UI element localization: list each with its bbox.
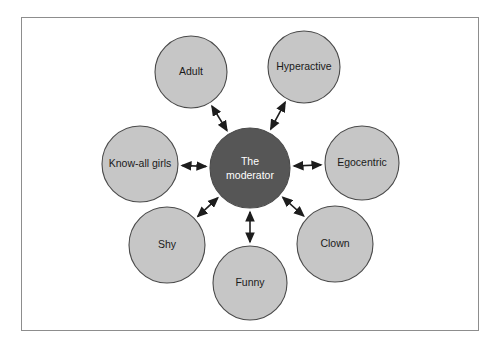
node-label-know-all-girls: Know-all girls <box>109 157 171 169</box>
hub-and-spoke-diagram: AdultHyperactiveEgocentricClownFunnyShyK… <box>0 0 497 349</box>
connector-the-moderator-to-clown <box>283 197 304 216</box>
node-label-adult: Adult <box>179 65 203 77</box>
node-label-clown: Clown <box>320 237 349 249</box>
node-label-egocentric: Egocentric <box>337 156 387 168</box>
node-hyperactive[interactable]: Hyperactive <box>268 31 340 103</box>
node-funny[interactable]: Funny <box>213 246 287 320</box>
center-label-line1: The <box>241 155 259 167</box>
connector-the-moderator-to-shy <box>198 198 218 217</box>
connector-the-moderator-to-hyperactive <box>271 102 285 129</box>
connector-the-moderator-to-adult <box>212 106 227 130</box>
connector-the-moderator-to-egocentric <box>294 165 321 166</box>
diagram-page: AdultHyperactiveEgocentricClownFunnyShyK… <box>0 0 497 349</box>
node-know-all-girls[interactable]: Know-all girls <box>102 126 178 202</box>
node-label-shy: Shy <box>158 238 177 250</box>
center-node-group: Themoderator <box>210 128 290 208</box>
center-label-line2: moderator <box>226 169 274 181</box>
node-clown[interactable]: Clown <box>297 206 373 282</box>
node-shy[interactable]: Shy <box>129 207 205 283</box>
node-label-hyperactive: Hyperactive <box>276 60 332 72</box>
node-adult[interactable]: Adult <box>155 36 227 108</box>
connector-the-moderator-to-know-all-girls <box>182 166 206 167</box>
node-egocentric[interactable]: Egocentric <box>325 126 399 200</box>
node-label-funny: Funny <box>235 276 265 288</box>
node-the-moderator[interactable]: Themoderator <box>210 128 290 208</box>
